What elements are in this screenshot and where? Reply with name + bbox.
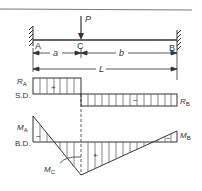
dimension-b-label: b [119, 48, 124, 58]
shear-rb-label: RB [180, 97, 190, 107]
moment-diagram [33, 116, 177, 175]
moment-mc-label: MC [44, 165, 56, 175]
shear-positive-sign: + [51, 83, 56, 92]
right-fixed-support-icon [177, 30, 181, 50]
top-rule [0, 9, 192, 10]
support-a-label: A [35, 41, 41, 51]
point-load-arrow-icon [78, 16, 84, 40]
load-label: P [85, 14, 91, 24]
moment-mb-label: MB [180, 131, 191, 141]
shear-negative-sign: − [133, 96, 138, 105]
moment-left-sign: − [36, 132, 41, 141]
dimension-l-label: L [99, 64, 104, 74]
shear-ra-label: RA [17, 77, 27, 87]
beam-diagram: P A C B a b L [0, 0, 202, 191]
shear-diagram-label: S.D. [15, 91, 31, 100]
moment-middle-sign: + [93, 151, 98, 160]
left-fixed-support-icon [29, 26, 33, 46]
point-c-label: C [77, 41, 84, 51]
dimension-a-label: a [53, 48, 58, 58]
moment-right-sign: − [166, 134, 171, 143]
moment-diagram-label: B.D. [15, 139, 31, 148]
moment-ma-label: MA [17, 123, 28, 133]
